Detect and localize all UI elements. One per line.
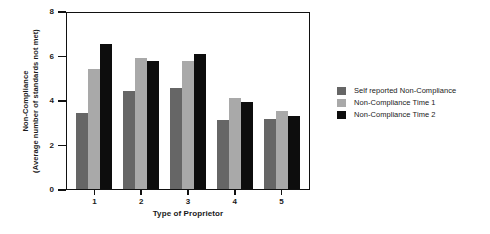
- y-axis-title-line2: (Average number of standards not met): [31, 29, 41, 173]
- x-axis-tick-label: 3: [178, 197, 198, 206]
- legend-swatch: [337, 111, 346, 119]
- x-axis-tick-label: 4: [225, 197, 245, 206]
- legend-label: Non-Compliance Time 1: [354, 98, 436, 107]
- x-axis-title: Type of Proprietor: [66, 209, 310, 218]
- bar: [170, 88, 182, 189]
- y-axis-title-line1: Non-Compliance: [21, 29, 31, 173]
- legend: Self reported Non-ComplianceNon-Complian…: [337, 85, 456, 121]
- bar: [123, 91, 135, 189]
- bar: [182, 61, 194, 189]
- bar: [147, 61, 159, 189]
- y-axis-tick: [58, 56, 66, 58]
- x-axis-tick-label: 2: [131, 197, 151, 206]
- y-axis-tick: [58, 189, 66, 191]
- bar: [229, 98, 241, 189]
- bar: [241, 102, 253, 189]
- bar: [135, 58, 147, 189]
- legend-item: Non-Compliance Time 1: [337, 97, 456, 108]
- y-axis-title: Non-Compliance (Average number of standa…: [14, 12, 48, 190]
- bar: [288, 116, 300, 189]
- x-axis-tick: [234, 190, 236, 195]
- bars-container: [67, 13, 309, 189]
- bar-chart-figure: Non-Compliance (Average number of standa…: [0, 0, 490, 234]
- y-axis-tick: [58, 100, 66, 102]
- x-axis-tick: [94, 190, 96, 195]
- legend-swatch: [337, 87, 346, 95]
- bar-group: [170, 13, 206, 189]
- bar: [76, 113, 88, 189]
- bar: [264, 119, 276, 189]
- x-axis-tick-label: 1: [84, 197, 104, 206]
- legend-label: Self reported Non-Compliance: [354, 86, 456, 95]
- bar: [276, 111, 288, 189]
- legend-item: Non-Compliance Time 2: [337, 109, 456, 120]
- x-axis-tick: [187, 190, 189, 195]
- bar: [100, 44, 112, 189]
- bar-group: [76, 13, 112, 189]
- legend-item: Self reported Non-Compliance: [337, 85, 456, 96]
- plot-area: [66, 12, 310, 190]
- bar-group: [123, 13, 159, 189]
- x-axis-tick: [281, 190, 283, 195]
- bar: [217, 120, 229, 189]
- bar-group: [217, 13, 253, 189]
- x-axis-tick: [140, 190, 142, 195]
- bar-group: [264, 13, 300, 189]
- legend-label: Non-Compliance Time 2: [354, 110, 436, 119]
- bar: [194, 54, 206, 189]
- x-axis-tick-label: 5: [272, 197, 292, 206]
- y-axis-tick: [58, 145, 66, 147]
- legend-swatch: [337, 99, 346, 107]
- y-axis-tick: [58, 11, 66, 13]
- bar: [88, 69, 100, 189]
